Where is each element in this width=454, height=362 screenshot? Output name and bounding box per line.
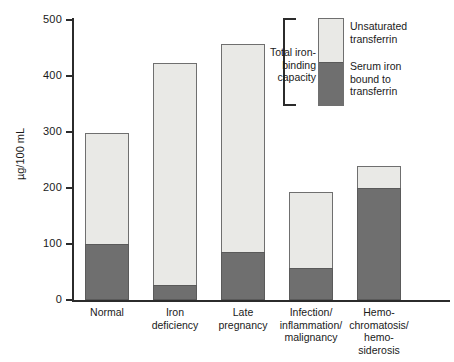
legend-label-serum-iron: Serum iron bound to transferrin (350, 60, 450, 98)
y-tick-label-200: 200 (22, 182, 62, 193)
legend-label-total-iron-binding-capacity: Total iron- binding capacity (232, 46, 316, 84)
y-tick-mark-0 (66, 299, 72, 301)
x-axis-label-hemochromatosis-line1: Hemo- (333, 306, 425, 319)
tibc-line2: binding (232, 59, 316, 72)
y-tick-label-300: 300 (22, 126, 62, 137)
y-tick-label-0: 0 (22, 294, 62, 305)
x-axis-label-hemochromatosis: Hemo- chromatosis/ hemo- siderosis (333, 306, 425, 356)
legend-swatch-stacked (318, 18, 344, 106)
x-axis-label-hemochromatosis-line2: chromatosis/ (333, 319, 425, 332)
tibc-bracket-icon: Total iron- binding capacity (283, 18, 296, 106)
bar-segment-serum-iron[interactable] (221, 252, 265, 300)
bar-segment-unsaturated-transferrin[interactable] (153, 63, 197, 300)
legend-swatch-serum-iron (319, 62, 343, 105)
tibc-line1: Total iron- (232, 46, 316, 59)
legend-serum-line3: transferrin (350, 85, 450, 98)
y-tick-mark-100 (66, 243, 72, 245)
bar-infection[interactable] (289, 192, 333, 300)
y-tick-label-100: 100 (22, 238, 62, 249)
legend-label-unsaturated-transferrin: Unsaturated transferrin (350, 20, 450, 45)
bar-segment-serum-iron[interactable] (357, 188, 401, 300)
y-tick-mark-500 (66, 19, 72, 21)
x-axis-label-hemochromatosis-line4: siderosis (333, 344, 425, 357)
legend-unsaturated-line2: transferrin (350, 33, 450, 46)
legend-serum-line1: Serum iron (350, 60, 450, 73)
y-tick-label-500: 500 (22, 14, 62, 25)
x-axis-line (72, 300, 450, 302)
x-axis-label-hemochromatosis-line3: hemo- (333, 331, 425, 344)
chart-legend: Total iron- binding capacity Unsaturated… (249, 16, 449, 108)
y-axis-line (72, 18, 74, 302)
legend-unsaturated-line1: Unsaturated (350, 20, 450, 33)
bar-normal[interactable] (85, 133, 129, 300)
tibc-line3: capacity (232, 71, 316, 84)
bar-segment-serum-iron[interactable] (289, 268, 333, 300)
y-tick-mark-400 (66, 75, 72, 77)
bar-hemochromatosis[interactable] (357, 166, 401, 300)
y-tick-mark-300 (66, 131, 72, 133)
legend-serum-line2: bound to (350, 73, 450, 86)
y-tick-label-400: 400 (22, 70, 62, 81)
bar-iron-deficiency[interactable] (153, 63, 197, 300)
y-tick-mark-200 (66, 187, 72, 189)
bar-segment-serum-iron[interactable] (153, 285, 197, 300)
iron-studies-bar-chart: µg/100 mL 500 400 300 200 100 0 (0, 0, 454, 362)
bar-segment-serum-iron[interactable] (85, 244, 129, 300)
